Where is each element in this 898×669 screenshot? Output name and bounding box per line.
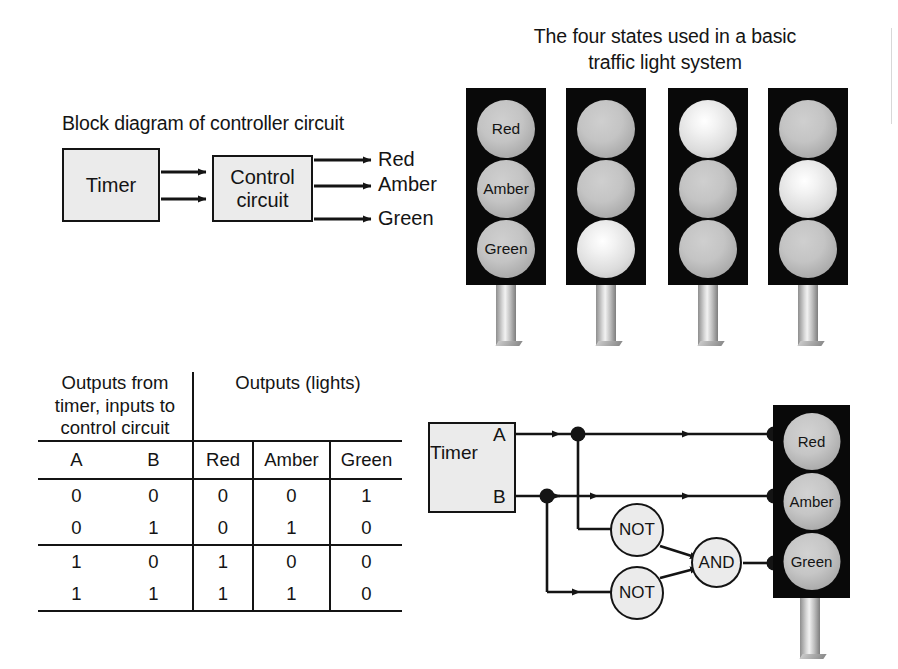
traffic-light-state-2 bbox=[566, 88, 646, 285]
not-gate-b: NOT bbox=[610, 566, 664, 620]
truth-table-grid: Outputs from timer, inputs to control ci… bbox=[38, 372, 402, 644]
cell-green: 0 bbox=[330, 578, 402, 611]
truth-table-group-header-outputs: Outputs (lights) bbox=[193, 372, 402, 441]
cell-green: 0 bbox=[330, 512, 402, 545]
cell-a: 1 bbox=[38, 545, 115, 578]
cell-amber: 0 bbox=[253, 479, 330, 512]
wire-junction-dots bbox=[540, 427, 782, 571]
block-output-label-red: Red bbox=[378, 148, 415, 171]
four-states-figure: The four states used in a basic traffic … bbox=[455, 18, 898, 363]
scan-edge-artifact bbox=[891, 28, 892, 124]
cell-red: 1 bbox=[193, 578, 253, 611]
state-1-bulb-amber: Amber bbox=[477, 160, 535, 218]
cell-red: 1 bbox=[193, 545, 253, 578]
table-row: 1 1 1 1 0 bbox=[38, 578, 402, 611]
cell-red: 0 bbox=[193, 512, 253, 545]
cell-a: 1 bbox=[38, 578, 115, 611]
truth-table: Outputs from timer, inputs to control ci… bbox=[38, 372, 402, 644]
cell-red: 0 bbox=[193, 479, 253, 512]
logic-bulb-green: Green bbox=[783, 533, 840, 590]
traffic-light-state-1: Red Amber Green bbox=[466, 88, 546, 285]
block-diagram-figure: Block diagram of controller circuit Time… bbox=[0, 0, 440, 250]
figure-page: Block diagram of controller circuit Time… bbox=[0, 0, 898, 669]
table-row: 0 1 0 1 0 bbox=[38, 512, 402, 545]
cell-a: 0 bbox=[38, 479, 115, 512]
state-2-bulb-amber bbox=[577, 160, 635, 218]
truth-table-body: 0 0 0 0 1 0 1 0 1 0 1 0 1 0 bbox=[38, 479, 402, 644]
block-output-label-amber: Amber bbox=[378, 173, 437, 196]
truth-table-group-header-row: Outputs from timer, inputs to control ci… bbox=[38, 372, 402, 441]
table-row: 0 0 0 0 1 bbox=[38, 479, 402, 512]
state-4-bulb-red bbox=[779, 100, 837, 158]
logic-bulb-red: Red bbox=[783, 413, 840, 470]
state-2-pole bbox=[596, 285, 616, 345]
state-3-bulb-amber bbox=[679, 160, 737, 218]
cell-b: 0 bbox=[115, 545, 193, 578]
logic-pin-a: A bbox=[493, 424, 506, 446]
logic-bulb-amber: Amber bbox=[783, 473, 840, 530]
cell-amber: 1 bbox=[253, 578, 330, 611]
truth-table-col-red: Red bbox=[193, 441, 253, 479]
logic-traffic-light-housing: Red Amber Green bbox=[773, 405, 850, 598]
traffic-light-state-4 bbox=[768, 88, 848, 285]
state-3-bulb-red bbox=[679, 100, 737, 158]
block-diagram-wires bbox=[0, 0, 440, 250]
truth-table-bottom-rule bbox=[38, 611, 402, 644]
cell-green: 0 bbox=[330, 545, 402, 578]
truth-table-col-a: A bbox=[38, 441, 115, 479]
state-2-bulb-red bbox=[577, 100, 635, 158]
logic-timer-label: Timer bbox=[430, 442, 478, 464]
and-gate: AND bbox=[691, 537, 742, 588]
cell-green: 1 bbox=[330, 479, 402, 512]
state-3-pole bbox=[698, 285, 718, 345]
truth-table-col-green: Green bbox=[330, 441, 402, 479]
truth-table-group-header-inputs: Outputs from timer, inputs to control ci… bbox=[38, 372, 193, 441]
four-states-caption-line2: traffic light system bbox=[588, 51, 742, 73]
state-1-bulb-green: Green bbox=[477, 220, 535, 278]
logic-traffic-light-pole bbox=[800, 598, 820, 658]
state-4-pole bbox=[798, 285, 818, 345]
four-states-caption-line1: The four states used in a basic bbox=[534, 25, 796, 47]
truth-table-column-header-row: A B Red Amber Green bbox=[38, 441, 402, 479]
state-3-bulb-green bbox=[679, 220, 737, 278]
logic-circuit-figure: Timer A B NOT NOT AND Red Amber Green bbox=[420, 398, 898, 669]
cell-amber: 0 bbox=[253, 545, 330, 578]
traffic-light-state-3 bbox=[668, 88, 748, 285]
cell-b: 1 bbox=[115, 578, 193, 611]
state-1-bulb-red: Red bbox=[477, 100, 535, 158]
truth-table-col-b: B bbox=[115, 441, 193, 479]
bottom-rule bbox=[38, 611, 402, 644]
state-4-bulb-green bbox=[779, 220, 837, 278]
four-states-caption: The four states used in a basic traffic … bbox=[455, 24, 875, 75]
cell-b: 1 bbox=[115, 512, 193, 545]
truth-table-col-amber: Amber bbox=[253, 441, 330, 479]
table-row: 1 0 1 0 0 bbox=[38, 545, 402, 578]
state-4-bulb-amber bbox=[779, 160, 837, 218]
cell-b: 0 bbox=[115, 479, 193, 512]
block-output-label-green: Green bbox=[378, 207, 434, 230]
cell-amber: 1 bbox=[253, 512, 330, 545]
logic-pin-b: B bbox=[493, 486, 506, 508]
not-gate-a: NOT bbox=[610, 503, 664, 557]
state-1-pole bbox=[496, 285, 516, 345]
cell-a: 0 bbox=[38, 512, 115, 545]
state-2-bulb-green bbox=[577, 220, 635, 278]
